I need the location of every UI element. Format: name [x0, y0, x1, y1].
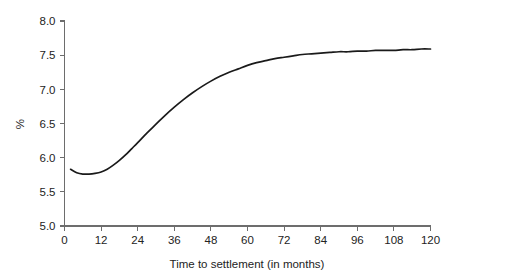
x-axis-tick-labels: 01224364860728496108120 — [61, 234, 440, 246]
y-axis-tick-labels: 5.05.56.06.57.07.58.0 — [40, 15, 56, 232]
y-tick-label: 6.0 — [40, 152, 56, 164]
x-axis-ticks — [65, 226, 431, 231]
x-tick-label: 84 — [314, 234, 327, 246]
x-tick-label: 0 — [61, 234, 67, 246]
x-tick-label: 60 — [241, 234, 254, 246]
x-tick-label: 120 — [421, 234, 440, 246]
x-tick-label: 24 — [131, 234, 144, 246]
x-axis-title: Time to settlement (in months) — [170, 258, 325, 270]
y-tick-label: 8.0 — [40, 15, 56, 27]
y-tick-label: 6.5 — [40, 118, 56, 130]
x-tick-label: 48 — [205, 234, 218, 246]
x-tick-label: 108 — [384, 234, 403, 246]
x-tick-label: 36 — [168, 234, 181, 246]
data-curve-1 — [71, 49, 431, 174]
x-tick-label: 12 — [95, 234, 108, 246]
y-axis-title: % — [14, 119, 26, 129]
y-tick-label: 5.5 — [40, 186, 56, 198]
yield-curve-chart: 5.05.56.06.57.07.58.0 012243648607284961… — [0, 0, 505, 276]
data-series-group — [71, 49, 431, 174]
y-tick-label: 7.0 — [40, 84, 56, 96]
x-tick-label: 72 — [278, 234, 291, 246]
chart-container: 5.05.56.06.57.07.58.0 012243648607284961… — [0, 0, 505, 276]
y-tick-label: 5.0 — [40, 220, 56, 232]
y-tick-label: 7.5 — [40, 49, 56, 61]
x-tick-label: 96 — [351, 234, 364, 246]
y-axis-ticks — [60, 21, 65, 226]
